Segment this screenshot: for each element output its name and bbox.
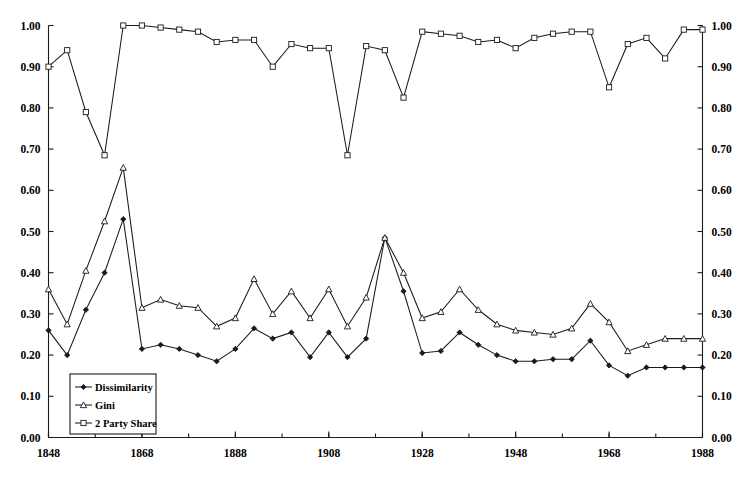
data-point-marker (139, 23, 144, 28)
data-point-marker (588, 29, 593, 34)
data-point-marker (476, 39, 481, 44)
data-point-marker (121, 23, 126, 28)
data-point-marker (270, 64, 275, 69)
y-tick-label-right: 0.60 (712, 184, 732, 196)
y-tick-label-right: 0.50 (712, 226, 732, 238)
x-tick-label: 1928 (411, 447, 434, 459)
y-tick-label-left: 0.90 (20, 61, 40, 73)
data-point-marker (700, 27, 705, 32)
chart-legend: DissimilarityGini2 Party Share (70, 374, 157, 434)
x-tick-label: 1948 (504, 447, 527, 459)
y-tick-label-left: 0.00 (20, 432, 40, 444)
data-point-marker (513, 46, 518, 51)
y-tick-label-right: 0.30 (712, 308, 732, 320)
y-tick-label-left: 0.20 (20, 349, 40, 361)
data-point-marker (606, 85, 611, 90)
y-tick-label-right: 0.10 (712, 390, 732, 402)
data-point-marker (663, 56, 668, 61)
data-point-marker (420, 29, 425, 34)
data-point-marker (382, 48, 387, 53)
x-tick-label: 1908 (317, 447, 340, 459)
data-point-marker (177, 27, 182, 32)
data-point-marker (251, 37, 256, 42)
data-point-marker (214, 39, 219, 44)
x-tick-label: 1868 (130, 447, 153, 459)
y-tick-label-right: 0.80 (712, 102, 732, 114)
data-point-marker (233, 37, 238, 42)
y-tick-label-left: 0.30 (20, 308, 40, 320)
x-tick-label: 1988 (691, 447, 714, 459)
data-point-marker (550, 31, 555, 36)
y-tick-label-left: 1.00 (20, 20, 40, 32)
data-point-marker (532, 35, 537, 40)
y-tick-label-right: 1.00 (712, 20, 732, 32)
legend-item-label: 2 Party Share (95, 418, 157, 429)
data-point-marker (625, 41, 630, 46)
data-point-marker (81, 420, 86, 425)
data-point-marker (569, 29, 574, 34)
y-tick-label-right: 0.40 (712, 267, 732, 279)
data-point-marker (494, 37, 499, 42)
y-tick-label-right: 0.90 (712, 61, 732, 73)
y-tick-label-left: 0.70 (20, 143, 40, 155)
chart-container: 0.000.100.200.300.400.500.600.700.800.90… (0, 0, 751, 480)
x-tick-label: 1888 (224, 447, 247, 459)
data-point-marker (158, 25, 163, 30)
data-point-marker (681, 27, 686, 32)
data-point-marker (102, 153, 107, 158)
data-point-marker (401, 95, 406, 100)
y-tick-label-left: 0.80 (20, 102, 40, 114)
data-point-marker (457, 33, 462, 38)
y-tick-label-right: 0.00 (712, 432, 732, 444)
y-tick-label-left: 0.50 (20, 226, 40, 238)
line-chart: 0.000.100.200.300.400.500.600.700.800.90… (0, 0, 751, 480)
y-tick-label-left: 0.10 (20, 390, 40, 402)
data-point-marker (345, 153, 350, 158)
legend-item-label: Dissimilarity (95, 382, 153, 393)
x-tick-label: 1848 (37, 447, 60, 459)
data-point-marker (83, 109, 88, 114)
y-tick-label-right: 0.70 (712, 143, 732, 155)
data-point-marker (326, 46, 331, 51)
legend-item-label: Gini (95, 400, 115, 411)
data-point-marker (438, 31, 443, 36)
y-tick-label-right: 0.20 (712, 349, 732, 361)
x-tick-label: 1968 (598, 447, 621, 459)
data-point-marker (289, 41, 294, 46)
data-point-marker (364, 44, 369, 49)
data-point-marker (195, 29, 200, 34)
y-tick-label-left: 0.60 (20, 184, 40, 196)
data-point-marker (46, 64, 51, 69)
data-point-marker (308, 46, 313, 51)
data-point-marker (65, 48, 70, 53)
y-tick-label-left: 0.40 (20, 267, 40, 279)
data-point-marker (644, 35, 649, 40)
